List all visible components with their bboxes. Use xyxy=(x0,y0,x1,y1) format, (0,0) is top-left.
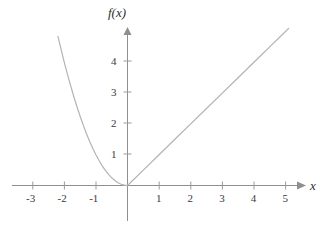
y-tick-label: 4 xyxy=(111,56,117,67)
x-tick-label: 3 xyxy=(219,193,225,204)
x-tick-label: 1 xyxy=(156,193,162,204)
linear-curve xyxy=(128,28,289,185)
x-tick-label: 2 xyxy=(188,193,194,204)
x-axis-label: x xyxy=(310,179,316,192)
function-plot xyxy=(0,0,324,235)
parabola-curve xyxy=(58,36,128,185)
x-tick-label: 5 xyxy=(282,193,288,204)
x-tick-label: -1 xyxy=(89,193,98,204)
y-tick-label: 2 xyxy=(111,118,117,129)
y-tick-label: 1 xyxy=(111,149,117,160)
x-tick-label: 4 xyxy=(251,193,257,204)
x-tick-label: -2 xyxy=(58,193,67,204)
y-axis-arrow-icon xyxy=(124,27,132,35)
x-axis-arrow-icon xyxy=(297,182,306,190)
y-tick-label: 3 xyxy=(111,87,117,98)
y-axis-label: f(x) xyxy=(108,6,126,19)
graph-figure: f(x) x -3 -2 -1 1 2 3 4 5 1 2 3 4 xyxy=(0,0,324,235)
x-tick-label: -3 xyxy=(26,193,35,204)
